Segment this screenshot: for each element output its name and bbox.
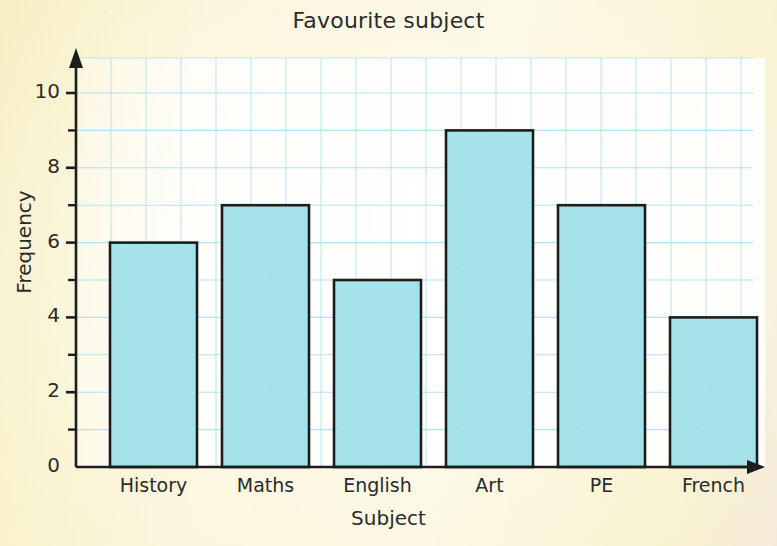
y-axis-tick-label: 4 — [20, 303, 60, 327]
bar-chart: Favourite subject Frequency Subject 0246… — [0, 0, 777, 546]
axis-ticks — [66, 93, 76, 430]
x-axis-tick-label: Maths — [222, 474, 309, 496]
bar — [670, 317, 757, 467]
y-axis-tick-label: 2 — [20, 378, 60, 402]
y-axis-tick-label: 0 — [20, 453, 60, 477]
bar — [446, 130, 533, 467]
chart-canvas — [0, 0, 777, 546]
x-axis-tick-label: French — [670, 474, 757, 496]
x-axis-tick-label: Art — [446, 474, 533, 496]
x-axis-tick-label: English — [334, 474, 421, 496]
x-axis-tick-label: PE — [558, 474, 645, 496]
bar — [222, 205, 309, 467]
bar — [558, 205, 645, 467]
bar — [334, 280, 421, 467]
bar-series — [110, 130, 757, 467]
bar — [110, 243, 197, 467]
y-axis-tick-label: 8 — [20, 154, 60, 178]
y-axis-tick-label: 6 — [20, 229, 60, 253]
y-axis-tick-label: 10 — [20, 79, 60, 103]
x-axis-tick-label: History — [110, 474, 197, 496]
